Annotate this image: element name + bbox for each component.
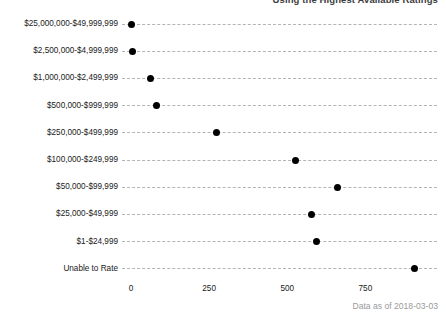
category-guide-line bbox=[122, 51, 437, 53]
category-guide-line bbox=[122, 187, 437, 189]
category-label: $500,000-$999,999 bbox=[0, 99, 118, 113]
data-point[interactable] bbox=[213, 129, 220, 136]
category-guide-line bbox=[122, 160, 437, 162]
category-guide-line bbox=[122, 214, 437, 216]
data-point[interactable] bbox=[147, 75, 154, 82]
data-point[interactable] bbox=[411, 265, 418, 272]
data-point[interactable] bbox=[292, 157, 299, 164]
category-label: Unable to Rate bbox=[0, 262, 118, 276]
category-label: $50,000-$99,999 bbox=[0, 180, 118, 194]
category-label: $1-$24,999 bbox=[0, 235, 118, 249]
x-axis-tick-label: 250 bbox=[202, 284, 216, 293]
x-axis: 0250500750 bbox=[0, 284, 446, 300]
chart-row: $250,000-$499,999 bbox=[0, 126, 446, 140]
chart-row: $1,000,000-$2,499,999 bbox=[0, 71, 446, 85]
category-label: $1,000,000-$2,499,999 bbox=[0, 71, 118, 85]
data-point[interactable] bbox=[313, 238, 320, 245]
plot-area: $25,000,000-$49,999,999$2,500,000-$4,999… bbox=[0, 0, 446, 290]
chart-row: $50,000-$99,999 bbox=[0, 180, 446, 194]
chart-row: $2,500,000-$4,999,999 bbox=[0, 44, 446, 58]
chart-row: $1-$24,999 bbox=[0, 235, 446, 249]
category-guide-line bbox=[122, 241, 437, 243]
chart-caption: Data as of 2018-03-03 bbox=[352, 301, 438, 311]
category-guide-line bbox=[122, 268, 437, 270]
x-axis-tick-label: 750 bbox=[359, 284, 373, 293]
x-axis-tick-label: 0 bbox=[129, 284, 134, 293]
data-point[interactable] bbox=[128, 21, 135, 28]
chart-row: $100,000-$249,999 bbox=[0, 153, 446, 167]
data-point[interactable] bbox=[153, 102, 160, 109]
data-point[interactable] bbox=[334, 184, 341, 191]
data-point[interactable] bbox=[308, 211, 315, 218]
category-label: $250,000-$499,999 bbox=[0, 126, 118, 140]
chart-row: $25,000,000-$49,999,999 bbox=[0, 17, 446, 31]
category-label: $100,000-$249,999 bbox=[0, 153, 118, 167]
data-point[interactable] bbox=[129, 48, 136, 55]
category-guide-line bbox=[122, 105, 437, 107]
chart-row: $25,000-$49,999 bbox=[0, 207, 446, 221]
chart-row: Unable to Rate bbox=[0, 262, 446, 276]
category-label: $2,500,000-$4,999,999 bbox=[0, 44, 118, 58]
dot-plot-chart: Using the Highest Available Ratings $25,… bbox=[0, 0, 446, 324]
category-guide-line bbox=[122, 24, 437, 26]
category-label: $25,000,000-$49,999,999 bbox=[0, 17, 118, 31]
chart-row: $500,000-$999,999 bbox=[0, 99, 446, 113]
x-axis-tick-label: 500 bbox=[280, 284, 294, 293]
category-label: $25,000-$49,999 bbox=[0, 207, 118, 221]
category-guide-line bbox=[122, 78, 437, 80]
category-guide-line bbox=[122, 132, 437, 134]
